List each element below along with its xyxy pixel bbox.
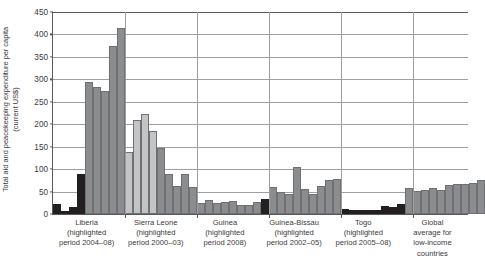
- bar-group-global: [413, 12, 485, 214]
- group-subtitle: period 2005–08): [330, 238, 397, 248]
- group-name: Sierra Leone: [122, 218, 189, 228]
- bar: [309, 194, 317, 214]
- y-tick-label-300: 300: [34, 75, 48, 84]
- y-tick-label-250: 250: [34, 97, 48, 106]
- bar: [173, 186, 181, 214]
- group-name: Guinea: [191, 218, 258, 228]
- bar: [101, 91, 109, 214]
- bar: [301, 189, 309, 214]
- y-tick-label-100: 100: [34, 165, 48, 174]
- bar: [317, 186, 325, 214]
- group-subtitle: period 2008): [191, 238, 258, 248]
- bar-group-togo: [341, 12, 413, 214]
- y-tick-label-450: 450: [34, 8, 48, 17]
- bar: [149, 131, 157, 214]
- bar: [261, 199, 269, 214]
- bars: [341, 12, 413, 214]
- bar: [285, 194, 293, 214]
- bar: [381, 206, 389, 214]
- group-subtitle: period 2002–05): [261, 238, 328, 248]
- x-axis-label-sierra-leone: Sierra Leone(highlightedperiod 2000–03): [121, 218, 190, 272]
- bar: [277, 192, 285, 214]
- y-axis-title: Total aid and peacekeeping expenditure p…: [0, 0, 22, 218]
- group-subtitle: (highlighted: [191, 228, 258, 238]
- bar: [93, 87, 101, 214]
- y-tick-label-150: 150: [34, 142, 48, 151]
- bar: [293, 167, 301, 214]
- bar: [157, 148, 165, 214]
- bar: [469, 183, 477, 214]
- bar-group-guinea-bissau: [269, 12, 341, 214]
- bar: [429, 188, 437, 214]
- x-axis-labels: Liberia(highlightedperiod 2004–08)Sierra…: [52, 218, 467, 272]
- bar: [413, 191, 421, 214]
- bars: [53, 12, 125, 214]
- bar: [53, 204, 61, 214]
- bar: [437, 190, 445, 214]
- y-axis-title-line1: Total aid and peacekeeping expenditure p…: [2, 26, 11, 191]
- bar: [477, 180, 485, 214]
- bar: [181, 174, 189, 214]
- bars: [413, 12, 485, 214]
- bar: [325, 180, 333, 214]
- bars: [197, 12, 269, 214]
- bar: [197, 203, 205, 214]
- group-subtitle: countries: [399, 249, 466, 259]
- y-tick-label-0: 0: [43, 210, 48, 219]
- bar: [189, 187, 197, 214]
- x-axis-label-togo: Togo(highlightedperiod 2005–08): [329, 218, 398, 272]
- group-subtitle: (highlighted: [330, 228, 397, 238]
- bar: [117, 28, 125, 214]
- bar: [445, 185, 453, 214]
- bar: [389, 207, 397, 214]
- bar: [69, 207, 77, 214]
- bar: [61, 211, 69, 214]
- y-tick-label-350: 350: [34, 52, 48, 61]
- bar: [365, 210, 373, 214]
- bar: [357, 210, 365, 214]
- group-subtitle: average for: [399, 228, 466, 238]
- bar-group-liberia: [53, 12, 125, 214]
- bar-groups: [53, 12, 468, 214]
- bar: [373, 210, 381, 214]
- x-axis-label-global: Globalaverage forlow-incomecountries: [398, 218, 467, 272]
- x-axis-label-guinea-bissau: Guinea-Bissau(highlightedperiod 2002–05): [260, 218, 329, 272]
- group-name: Liberia: [53, 218, 120, 228]
- x-axis-label-guinea: Guinea(highlightedperiod 2008): [190, 218, 259, 272]
- bar: [133, 120, 141, 214]
- bar-group-sierra-leone: [125, 12, 197, 214]
- y-tick-label-50: 50: [39, 187, 48, 196]
- bar-group-guinea: [197, 12, 269, 214]
- y-tick-label-200: 200: [34, 120, 48, 129]
- bar: [221, 202, 229, 214]
- group-subtitle: (highlighted: [53, 228, 120, 238]
- bar: [269, 187, 277, 214]
- bar: [77, 174, 85, 214]
- group-subtitle: low-income: [399, 238, 466, 248]
- bar: [237, 205, 245, 214]
- bar: [205, 200, 213, 214]
- bar: [165, 174, 173, 214]
- bar: [85, 82, 93, 214]
- plot-area: 050100150200250300350400450: [52, 12, 468, 215]
- group-subtitle: (highlighted: [122, 228, 189, 238]
- bar: [245, 205, 253, 214]
- bars: [269, 12, 341, 214]
- group-name: Global: [399, 218, 466, 228]
- bar: [461, 184, 469, 214]
- group-subtitle: period 2000–03): [122, 238, 189, 248]
- x-axis-label-liberia: Liberia(highlightedperiod 2004–08): [52, 218, 121, 272]
- bar: [125, 152, 133, 214]
- group-name: Togo: [330, 218, 397, 228]
- bar: [421, 190, 429, 214]
- y-axis-title-line2: (current US$): [11, 26, 21, 191]
- bar: [341, 209, 349, 214]
- bar: [349, 210, 357, 214]
- bar: [397, 204, 405, 214]
- bar: [333, 179, 341, 214]
- bar: [109, 46, 117, 214]
- y-tick-label-400: 400: [34, 30, 48, 39]
- bar: [253, 202, 261, 214]
- group-subtitle: (highlighted: [261, 228, 328, 238]
